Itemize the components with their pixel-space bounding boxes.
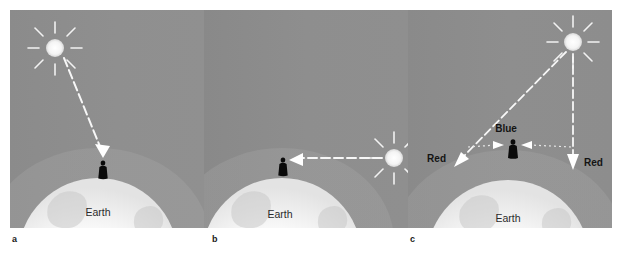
sunlight-ray-overhead (64, 58, 110, 158)
panel-a: Earth (10, 10, 204, 228)
panel-strip: Earth (10, 10, 612, 228)
red-ray-right (567, 54, 579, 170)
sun-icon (28, 22, 82, 75)
panel-a-graphic: Earth (10, 10, 204, 228)
panel-caption-a: a (12, 234, 17, 244)
red-label-right: Red (584, 157, 603, 168)
panel-b: Earth (204, 10, 408, 228)
panel-b-graphic: Earth (204, 10, 408, 228)
blue-label: Blue (495, 123, 517, 134)
panel-c-graphic: Blue Red Red Earth (408, 10, 612, 228)
earth-label: Earth (495, 212, 520, 224)
figure-sunlight-scattering: Earth (0, 0, 625, 260)
earth-label: Earth (85, 206, 110, 218)
earth-label: Earth (267, 208, 292, 220)
blue-scatter-rays (468, 141, 571, 149)
red-label-left: Red (427, 153, 446, 164)
panel-caption-c: c (410, 234, 415, 244)
panel-c: Blue Red Red Earth (408, 10, 612, 228)
panel-caption-b: b (212, 234, 218, 244)
observer-silhouette (508, 139, 518, 159)
